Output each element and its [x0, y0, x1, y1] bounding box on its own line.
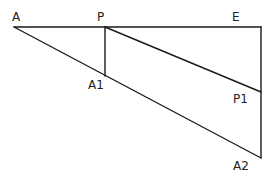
- label-point-p1: P1: [233, 92, 248, 106]
- label-point-p: P: [97, 10, 104, 24]
- segment-a-a2: [14, 27, 261, 158]
- segment-p-p1: [105, 27, 261, 92]
- geometry-diagram: A P E A1 P1 A2: [0, 0, 275, 181]
- label-point-a2: A2: [233, 159, 249, 173]
- label-point-a: A: [12, 10, 21, 24]
- label-point-e: E: [232, 10, 240, 24]
- label-point-a1: A1: [88, 78, 104, 92]
